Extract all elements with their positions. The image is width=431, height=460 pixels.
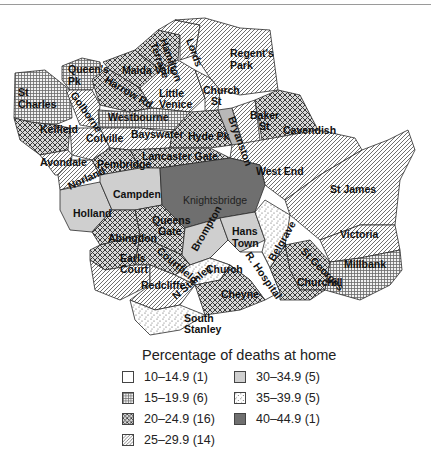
svg-text:Knightsbridge: Knightsbridge: [183, 194, 247, 206]
svg-text:Charles: Charles: [18, 98, 57, 110]
legend-item-30-34: 30–34.9 (5): [234, 370, 320, 384]
swatch-stipple: [234, 392, 246, 404]
svg-text:Churchill: Churchill: [297, 276, 343, 288]
svg-text:Queen's: Queen's: [68, 63, 109, 75]
svg-text:Stanley: Stanley: [184, 323, 222, 335]
ward-map: St Charles Queen's Pk Golborne Harrow Rd…: [0, 0, 431, 345]
svg-text:Avondale: Avondale: [40, 156, 87, 168]
legend-item-40-44: 40–44.9 (1): [234, 412, 320, 426]
legend-item-15-19: 15–19.9 (6): [122, 391, 208, 405]
swatch-light-grey: [234, 371, 246, 383]
legend-item-10-14: 10–14.9 (1): [122, 370, 208, 384]
swatch-crosshatch: [122, 413, 134, 425]
svg-text:Town: Town: [232, 237, 259, 249]
svg-text:St James: St James: [330, 183, 376, 195]
legend-item-20-24: 20–24.9 (16): [122, 412, 215, 426]
svg-text:Park: Park: [230, 59, 253, 71]
svg-text:Colville: Colville: [86, 132, 124, 144]
legend-label: 40–44.9 (1): [256, 412, 320, 426]
svg-text:Holland: Holland: [73, 207, 112, 219]
legend-label: 10–14.9 (1): [144, 370, 208, 384]
svg-text:Pk: Pk: [68, 75, 81, 87]
svg-text:Campden: Campden: [113, 188, 161, 200]
svg-text:Venice: Venice: [159, 98, 192, 110]
svg-text:Westbourne: Westbourne: [108, 111, 169, 123]
svg-text:Abingdon: Abingdon: [108, 232, 157, 244]
legend-label: 30–34.9 (5): [256, 370, 320, 384]
svg-text:Hyde Pk: Hyde Pk: [188, 130, 230, 142]
legend-label: 15–19.9 (6): [144, 391, 208, 405]
svg-text:Hans: Hans: [232, 225, 258, 237]
svg-text:Millbank: Millbank: [344, 258, 386, 270]
swatch-grid: [122, 392, 134, 404]
svg-text:St: St: [18, 86, 29, 98]
svg-text:Cheyne: Cheyne: [221, 288, 259, 300]
svg-text:Kelfield: Kelfield: [40, 123, 78, 135]
legend-item-25-29: 25–29.9 (14): [122, 433, 215, 447]
svg-text:West End: West End: [256, 165, 304, 177]
svg-text:Victoria: Victoria: [340, 228, 378, 240]
swatch-dark-grey: [234, 413, 246, 425]
svg-text:Bayswater: Bayswater: [131, 128, 184, 140]
svg-text:Gate: Gate: [158, 225, 182, 237]
svg-text:Regent's: Regent's: [230, 47, 274, 59]
legend-label: 25–29.9 (14): [144, 433, 215, 447]
legend-label: 35–39.9 (5): [256, 391, 320, 405]
svg-text:Cavendish: Cavendish: [283, 124, 336, 136]
svg-text:Court: Court: [120, 263, 148, 275]
legend-title: Percentage of deaths at home: [142, 347, 336, 363]
svg-text:St: St: [211, 95, 222, 107]
svg-text:Lancaster Gate: Lancaster Gate: [142, 150, 218, 162]
legend-label: 20–24.9 (16): [144, 412, 215, 426]
swatch-diagonal: [122, 434, 134, 446]
swatch-white: [122, 371, 134, 383]
legend-item-35-39: 35–39.9 (5): [234, 391, 320, 405]
svg-text:St: St: [259, 120, 270, 132]
